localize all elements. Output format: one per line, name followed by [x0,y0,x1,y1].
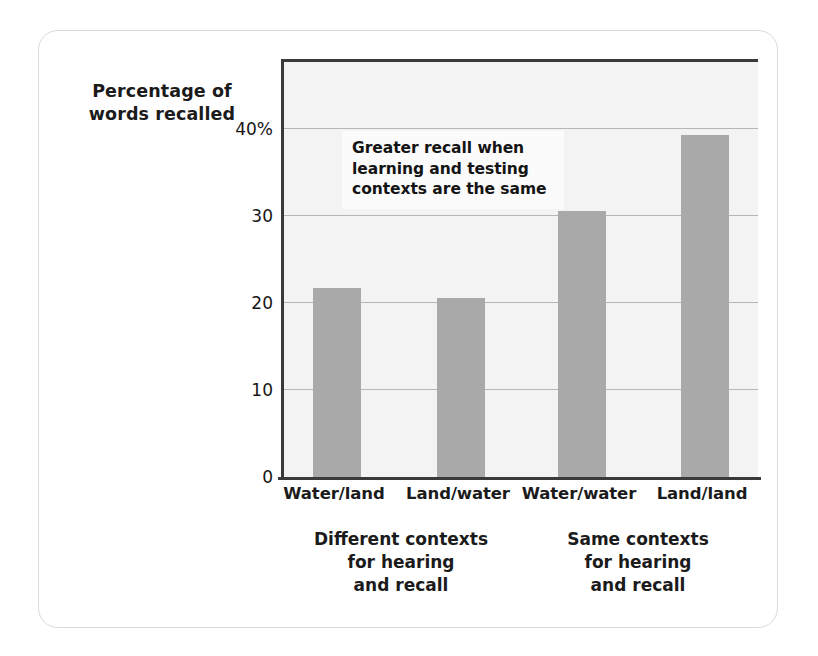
y-tick-label-0: 0 [203,467,273,487]
x-tick-label-land-land: Land/land [632,484,772,503]
y-tick-label-40: 40% [203,119,273,139]
x-tick-label-land-water: Land/water [388,484,528,503]
bar-water-water [558,211,606,477]
x-axis-line [278,477,761,480]
x-tick-label-water-land: Water/land [264,484,404,503]
group-caption-right-line-1: Same contexts [518,528,758,551]
group-caption-right-line-2: for hearing [518,551,758,574]
bar-land-water [437,298,485,477]
bar-land-land [681,135,729,477]
bar-water-land [313,288,361,477]
gridline-40 [284,128,758,129]
group-caption-same-contexts: Same contexts for hearing and recall [518,528,758,596]
y-tick-label-20: 20 [203,293,273,313]
group-caption-left-line-3: and recall [281,574,521,597]
y-axis-tick-labels: 010203040% [195,59,273,477]
annotation-line-1: Greater recall when [352,138,555,159]
plot-area [281,59,758,477]
annotation-line-2: learning and testing [352,159,555,180]
x-axis-tick-labels: Water/landLand/waterWater/waterLand/land [281,484,758,514]
y-tick-label-10: 10 [203,380,273,400]
x-tick-label-water-water: Water/water [509,484,649,503]
group-caption-left-line-2: for hearing [281,551,521,574]
group-captions: Different contexts for hearing and recal… [281,528,758,614]
annotation-line-3: contexts are the same [352,179,555,200]
y-tick-label-30: 30 [203,206,273,226]
group-caption-right-line-3: and recall [518,574,758,597]
group-caption-different-contexts: Different contexts for hearing and recal… [281,528,521,596]
group-caption-left-line-1: Different contexts [281,528,521,551]
annotation-callout: Greater recall when learning and testing… [342,131,564,209]
